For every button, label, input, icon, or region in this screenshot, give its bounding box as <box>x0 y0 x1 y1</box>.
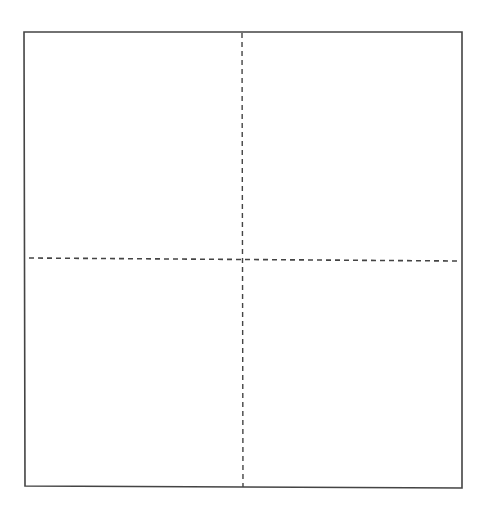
quadrant-top-right <box>243 33 461 259</box>
quadrant-diagram <box>0 0 479 506</box>
diagram-canvas <box>0 0 479 506</box>
quadrant-top-left <box>25 33 242 259</box>
quadrant-bottom-right <box>243 261 461 486</box>
vertical-dashed-divider <box>242 33 243 487</box>
quadrant-bottom-left <box>25 261 242 486</box>
